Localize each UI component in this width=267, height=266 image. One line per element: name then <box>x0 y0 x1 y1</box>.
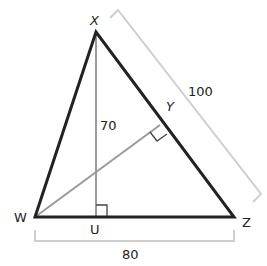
bracket-wz <box>35 230 234 241</box>
bracket-xz <box>110 10 261 202</box>
label-x: X <box>89 13 100 28</box>
triangle-wxz <box>35 32 234 217</box>
length-wz: 80 <box>122 247 139 262</box>
triangle-diagram: X Y W Z U 70 100 80 <box>0 0 267 266</box>
label-y: Y <box>166 99 175 114</box>
label-u: U <box>90 222 100 237</box>
label-z: Z <box>242 215 251 230</box>
length-xu: 70 <box>100 118 117 133</box>
right-angle-mark-u <box>96 205 107 217</box>
right-angle-mark-y <box>150 132 167 141</box>
altitude-wy <box>35 125 160 217</box>
label-w: W <box>14 210 27 225</box>
length-xz: 100 <box>188 84 213 99</box>
